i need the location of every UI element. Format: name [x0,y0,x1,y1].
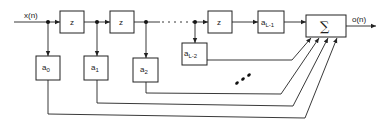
coefficient-block-a1: a1 [84,56,108,80]
input-signal: x(n) [14,11,60,22]
svg-text:z: z [217,18,221,27]
delay-block-1: z [60,11,84,33]
delay-block-3: z [208,11,232,33]
fir-filter-diagram: x(n) z z z aL-1 ∑ o(n) [0,0,387,126]
sigma-icon: ∑ [320,19,330,34]
input-label: x(n) [24,11,38,20]
summation-block: ∑ [306,15,346,37]
feed-a1 [97,38,328,106]
svg-text:z: z [70,18,74,27]
output-label: o(n) [352,15,367,24]
ellipsis-diagonal [235,73,252,86]
coefficient-block-aL-1: aL-1 [258,11,284,33]
svg-text:z: z [119,18,123,27]
output-signal: o(n) [346,15,376,26]
coefficient-block-a2: a2 [133,58,158,82]
feed-a2 [146,38,319,94]
coefficient-block-a0: a0 [36,56,60,80]
delay-block-2: z [110,11,134,33]
feed-aL-2 [207,38,311,60]
coefficient-block-aL-2: aL-2 [182,43,207,65]
